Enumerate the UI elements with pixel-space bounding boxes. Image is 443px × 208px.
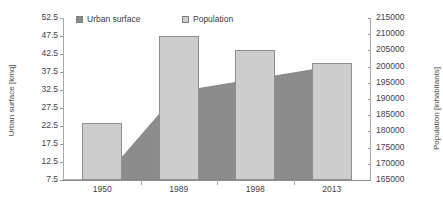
population-bar <box>82 123 122 180</box>
population-bar <box>235 50 275 180</box>
y-left-tick-label: 12.5 <box>24 156 58 166</box>
y-right-tick-label: 205000 <box>376 44 420 54</box>
y-right-tick-label: 165000 <box>376 174 420 184</box>
dark-swatch-icon <box>76 16 83 23</box>
chart-container: Urban surface [kmq] Population [inhabita… <box>0 0 443 208</box>
y-left-tick-label: 42.5 <box>24 48 58 58</box>
y-axis-left-title: Urban surface [kmq] <box>7 46 16 156</box>
plot-axis-line-right <box>370 18 371 181</box>
x-axis-tick-label: 2013 <box>302 184 362 194</box>
y-axis-right-title: Population [inhabitants] <box>432 50 441 168</box>
y-right-tick-label: 185000 <box>376 109 420 119</box>
y-right-tick-label: 195000 <box>376 77 420 87</box>
y-left-tick-label: 47.5 <box>24 30 58 40</box>
light-swatch-icon <box>182 16 189 23</box>
y-right-tick-label: 170000 <box>376 158 420 168</box>
x-axis-tick-label: 1998 <box>225 184 285 194</box>
y-right-tick-label: 190000 <box>376 93 420 103</box>
y-left-tick-label: 17.5 <box>24 138 58 148</box>
y-left-tick-label: 52.5 <box>24 12 58 22</box>
y-left-tick-label: 7.5 <box>24 174 58 184</box>
legend-label: Population <box>193 14 233 24</box>
plot-area <box>64 18 370 180</box>
x-axis-tick-label: 1950 <box>72 184 132 194</box>
y-right-tick-label: 215000 <box>376 12 420 22</box>
y-right-tick-label: 210000 <box>376 28 420 38</box>
y-left-tick-label: 32.5 <box>24 84 58 94</box>
y-left-tick-label: 37.5 <box>24 66 58 76</box>
x-axis-tick-mark <box>294 180 295 185</box>
x-axis-tick-label: 1989 <box>149 184 209 194</box>
population-bar <box>312 63 352 180</box>
chart-legend: Urban surfacePopulation <box>64 14 370 28</box>
legend-item[interactable]: Urban surface <box>76 14 140 24</box>
x-axis-tick-mark <box>141 180 142 185</box>
population-bar <box>159 36 199 180</box>
legend-item[interactable]: Population <box>182 14 233 24</box>
y-left-tick-label: 22.5 <box>24 120 58 130</box>
y-right-tick-label: 200000 <box>376 61 420 71</box>
y-right-tick-label: 180000 <box>376 125 420 135</box>
y-right-tick-label: 175000 <box>376 142 420 152</box>
legend-label: Urban surface <box>87 14 140 24</box>
y-left-tick-label: 27.5 <box>24 102 58 112</box>
x-axis-tick-mark <box>217 180 218 185</box>
